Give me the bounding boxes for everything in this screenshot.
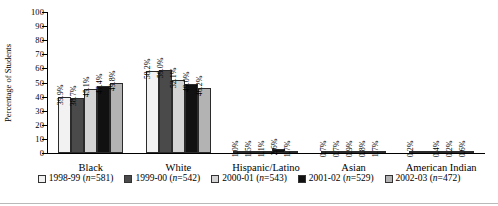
y-tick-label: 30 [35,106,44,115]
bar[interactable]: 0.6% [461,151,474,153]
bar-groups: 39.9%38.7%45.1%47.4%49.8%58.2%59.0%52.1%… [47,12,485,154]
bar[interactable]: 1.7% [285,151,298,153]
y-tick-label: 70 [35,50,44,59]
legend-swatch [211,175,219,183]
bar-group-bars: 0.2%0.4%0.2%0.6% [397,12,485,153]
bar-chart: Percentage of Students 01020304050607080… [0,0,498,206]
bar-value-label: 1.5% [245,141,253,158]
bar-value-label: 1.0% [232,141,240,158]
legend-item[interactable]: 1999-00 (n=542) [124,174,200,184]
y-tick-label: 40 [35,92,44,101]
bar-value-label: 38.7% [70,86,78,107]
y-tick-label: 90 [35,22,44,31]
bar-value-label: 0.6% [459,141,467,158]
bar[interactable]: 49.8% [110,83,123,153]
legend-item[interactable]: 2002-03 (n=472) [385,174,461,184]
x-category-label: American Indian [397,162,485,173]
legend-label: 2002-03 (n=472) [396,174,461,184]
x-category-label: White [135,162,223,173]
bar-value-label: 59.0% [157,57,165,78]
legend-item[interactable]: 2001-02 (n=529) [298,174,374,184]
bar-value-label: 0.2% [446,141,454,158]
y-axis-title: Percentage of Students [2,12,14,154]
y-tick-label: 10 [35,135,44,144]
bar-group-bars: 0.7%0.7%0.9%0.8%1.7% [310,12,398,153]
bar-value-label: 46.2% [196,76,204,97]
bar-value-label: 52.1% [170,67,178,88]
bar[interactable]: 1.7% [373,151,386,153]
y-tick-label: 50 [35,78,44,87]
bar[interactable]: 46.2% [198,88,211,153]
legend-label: 2000-01 (n=543) [222,174,287,184]
bar-value-label: 0.2% [407,141,415,158]
bar-value-label: 39.9% [57,84,65,105]
bar-value-label: 58.2% [144,59,152,80]
legend-swatch [385,175,393,183]
legend-swatch [298,175,306,183]
legend-label: 1998-99 (n=581) [49,174,114,184]
bar-value-label: 45.1% [83,77,91,98]
x-category-label: Asian [310,162,398,173]
bar[interactable]: 47.4% [97,86,110,153]
bar-group: 0.7%0.7%0.9%0.8%1.7% [310,12,398,153]
legend-swatch [38,175,46,183]
legend-label: 2001-02 (n=529) [309,174,374,184]
bar-value-label: 2.6% [271,139,279,156]
plot-area: 0102030405060708090100 39.9%38.7%45.1%47… [47,12,485,154]
bar-value-label: 49.0% [183,72,191,93]
legend-swatch [124,175,132,183]
legend-item[interactable]: 2000-01 (n=543) [211,174,287,184]
bar-value-label: 0.8% [359,141,367,158]
bar[interactable]: 58.2% [146,71,159,153]
bar[interactable]: 38.7% [71,98,84,153]
bar-group: 0.2%0.4%0.2%0.6% [397,12,485,153]
bar-group: 1.0%1.5%1.1%2.6%1.7% [222,12,310,153]
bar-group: 39.9%38.7%45.1%47.4%49.8% [47,12,135,153]
bar-value-label: 0.9% [346,141,354,158]
legend-item[interactable]: 1998-99 (n=581) [38,174,114,184]
bar-value-label: 0.7% [320,141,328,158]
bottom-divider [0,203,498,204]
x-category-label: Black [47,162,135,173]
bar-group-bars: 1.0%1.5%1.1%2.6%1.7% [222,12,310,153]
x-category-label: Hispanic/Latino [222,162,310,173]
bar-value-label: 0.4% [433,141,441,158]
y-tick-label: 0 [40,149,44,158]
bar-value-label: 47.4% [96,74,104,95]
bar-value-label: 0.7% [333,141,341,158]
chart-legend: 1998-99 (n=581)1999-00 (n=542)2000-01 (n… [0,174,498,184]
bar-group: 58.2%59.0%52.1%49.0%46.2% [135,12,223,153]
y-tick-label: 100 [31,8,44,17]
bar[interactable]: 45.1% [84,89,97,153]
y-tick-label: 20 [35,121,44,130]
bar[interactable]: 0.2% [409,151,422,153]
bar-value-label: 1.7% [372,140,380,157]
legend-label: 1999-00 (n=542) [135,174,200,184]
bar-group-bars: 58.2%59.0%52.1%49.0%46.2% [135,12,223,153]
bar-value-label: 1.7% [284,140,292,157]
bar-value-label: 49.8% [109,70,117,91]
bar-group-bars: 39.9%38.7%45.1%47.4%49.8% [47,12,135,153]
y-tick-label: 80 [35,36,44,45]
y-tick-label: 60 [35,64,44,73]
bar-value-label: 1.1% [258,141,266,158]
